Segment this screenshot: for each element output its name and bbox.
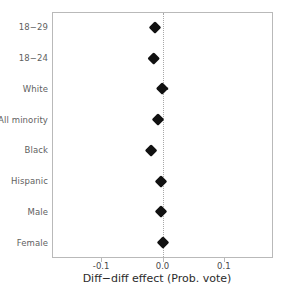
- forest-plot-figure: 18−2918−24WhiteAll minorityBlackHispanic…: [0, 0, 282, 292]
- data-point-hispanic: [157, 176, 165, 187]
- x-tick-label: 0.0: [156, 261, 170, 271]
- data-point-black: [147, 145, 157, 156]
- y-axis-label-18-24: 18−24: [19, 53, 48, 63]
- y-axis-label-black: Black: [25, 145, 49, 155]
- plot-panel: [52, 12, 273, 258]
- data-point-all-minority: [154, 114, 162, 125]
- x-axis-title-text: Diff−diff effect (Prob. vote): [83, 272, 232, 285]
- data-point-18-24: [149, 53, 158, 64]
- y-axis-label-hispanic: Hispanic: [11, 176, 48, 186]
- y-axis-label-18-29: 18−29: [19, 22, 48, 32]
- y-axis-label-all-minority: All minority: [0, 115, 48, 125]
- point-estimate-diamond-icon: [145, 144, 158, 157]
- x-tick-label: 0.1: [217, 261, 231, 271]
- zero-reference-line: [163, 13, 165, 257]
- data-point-white: [157, 83, 169, 94]
- y-axis-label-male: Male: [27, 207, 48, 217]
- data-point-18-29: [151, 22, 159, 33]
- y-axis-label-female: Female: [17, 238, 48, 248]
- x-tick-label: -0.1: [93, 261, 110, 271]
- point-estimate-diamond-icon: [156, 83, 169, 96]
- data-point-male: [157, 206, 165, 217]
- data-point-female: [159, 237, 167, 248]
- y-axis-label-white: White: [23, 84, 48, 94]
- x-axis-title: Diff−diff effect (Prob. vote): [0, 272, 282, 285]
